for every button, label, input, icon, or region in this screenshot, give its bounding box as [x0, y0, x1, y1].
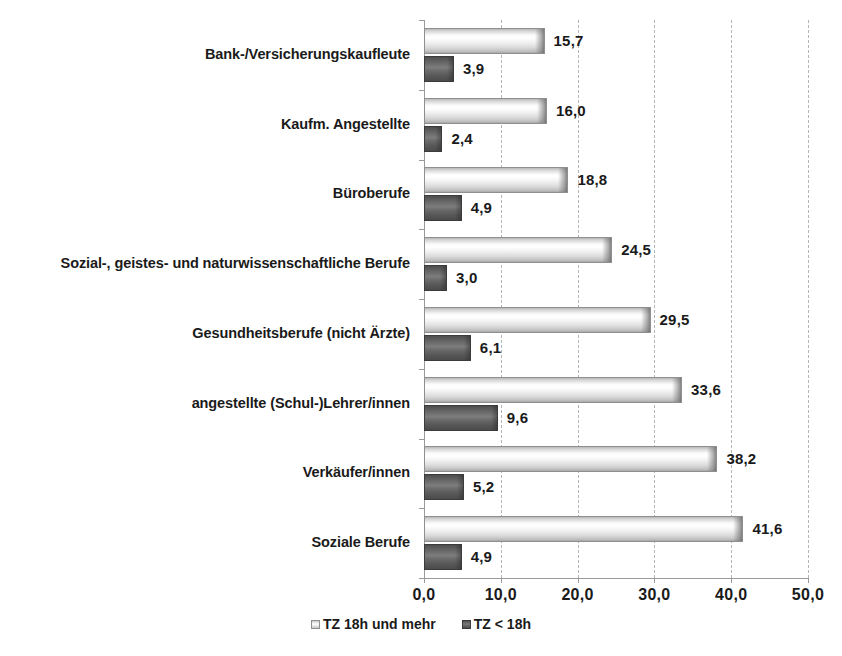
x-axis-tick-label: 10,0 — [485, 586, 517, 604]
bar-tz-18h-und-mehr[interactable] — [424, 516, 743, 542]
bar-value-label: 3,9 — [463, 60, 484, 77]
x-axis-line — [424, 578, 808, 579]
category-label: Bank-/Versicherungskaufleute — [205, 46, 410, 62]
bar-value-label: 41,6 — [752, 520, 782, 537]
category-label: Büroberufe — [333, 185, 410, 201]
bar-group: 29,56,1 — [424, 299, 808, 369]
x-axis-tick — [654, 578, 655, 583]
bar-value-label: 15,7 — [554, 32, 584, 49]
bar-group: 41,64,9 — [424, 508, 808, 578]
legend-item-tz-unter-18h[interactable]: TZ < 18h — [462, 616, 531, 632]
legend-item-tz-18h-und-mehr[interactable]: TZ 18h und mehr — [311, 616, 436, 632]
bar-value-label: 38,2 — [726, 450, 756, 467]
bar-group: 33,69,6 — [424, 369, 808, 439]
bar-group: 38,25,2 — [424, 439, 808, 509]
bar-group: 16,02,4 — [424, 90, 808, 160]
legend-swatch-dark-icon — [462, 620, 471, 629]
bar-tz-unter-18h[interactable] — [424, 335, 471, 361]
bar-value-label: 4,9 — [471, 548, 492, 565]
bar-value-label: 6,1 — [480, 339, 501, 356]
category-label: Kaufm. Angestellte — [281, 116, 410, 132]
bar-value-label: 18,8 — [577, 171, 607, 188]
bar-chart: Bank-/VersicherungskaufleuteKaufm. Anges… — [0, 0, 842, 656]
chart-legend: TZ 18h und mehr TZ < 18h — [0, 616, 842, 632]
x-axis-tick-label: 20,0 — [561, 586, 593, 604]
bar-tz-18h-und-mehr[interactable] — [424, 307, 651, 333]
x-axis-tick — [808, 578, 809, 583]
bar-value-label: 24,5 — [621, 241, 651, 258]
bar-tz-unter-18h[interactable] — [424, 405, 498, 431]
category-label: Soziale Berufe — [311, 534, 410, 550]
bar-value-label: 4,9 — [471, 199, 492, 216]
bar-tz-18h-und-mehr[interactable] — [424, 377, 682, 403]
x-axis-tick — [578, 578, 579, 583]
gridline — [808, 20, 809, 578]
bar-value-label: 2,4 — [451, 130, 472, 147]
bar-value-label: 3,0 — [456, 269, 477, 286]
bar-value-label: 9,6 — [507, 409, 528, 426]
bar-tz-unter-18h[interactable] — [424, 195, 462, 221]
category-label: Sozial-, geistes- und naturwissenschaftl… — [61, 255, 410, 271]
bar-group: 24,53,0 — [424, 229, 808, 299]
x-axis-tick-label: 0,0 — [412, 586, 435, 604]
plot-area: 15,73,916,02,418,84,924,53,029,56,133,69… — [424, 20, 808, 578]
bar-tz-18h-und-mehr[interactable] — [424, 237, 612, 263]
legend-label: TZ < 18h — [474, 616, 531, 632]
legend-label: TZ 18h und mehr — [323, 616, 436, 632]
bar-value-label: 5,2 — [473, 478, 494, 495]
bar-tz-unter-18h[interactable] — [424, 56, 454, 82]
x-axis-tick — [424, 578, 425, 583]
bar-tz-18h-und-mehr[interactable] — [424, 98, 547, 124]
bar-value-label: 33,6 — [691, 381, 721, 398]
bar-tz-18h-und-mehr[interactable] — [424, 167, 568, 193]
bar-value-label: 16,0 — [556, 102, 586, 119]
legend-swatch-light-icon — [311, 620, 320, 629]
bar-tz-unter-18h[interactable] — [424, 126, 442, 152]
x-axis-tick — [731, 578, 732, 583]
bar-value-label: 29,5 — [660, 311, 690, 328]
category-label: Verkäufer/innen — [303, 464, 410, 480]
category-label: angestellte (Schul-)Lehrer/innen — [192, 395, 410, 411]
bar-tz-unter-18h[interactable] — [424, 544, 462, 570]
x-axis-tick-label: 30,0 — [638, 586, 670, 604]
x-axis-tick — [501, 578, 502, 583]
category-label: Gesundheitsberufe (nicht Ärzte) — [192, 325, 410, 341]
bar-tz-18h-und-mehr[interactable] — [424, 28, 545, 54]
bar-tz-unter-18h[interactable] — [424, 474, 464, 500]
bar-group: 18,84,9 — [424, 160, 808, 230]
x-axis-tick-label: 40,0 — [715, 586, 747, 604]
x-axis-tick-label: 50,0 — [792, 586, 824, 604]
bar-tz-18h-und-mehr[interactable] — [424, 446, 717, 472]
bar-tz-unter-18h[interactable] — [424, 265, 447, 291]
bar-group: 15,73,9 — [424, 20, 808, 90]
